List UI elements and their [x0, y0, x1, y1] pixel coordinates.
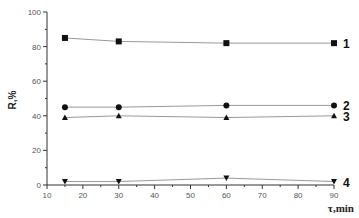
- series-line-2: [65, 105, 334, 107]
- y-tick-label: 0: [37, 181, 42, 190]
- x-tick-label: 20: [78, 191, 87, 200]
- circle-marker-icon: [223, 102, 229, 108]
- x-tick-label: 90: [330, 191, 339, 200]
- square-marker-icon: [331, 40, 337, 46]
- series-line-3: [65, 116, 334, 118]
- series-line-4: [65, 178, 334, 181]
- series-label-3: 3: [343, 110, 350, 124]
- x-tick-label: 40: [150, 191, 159, 200]
- x-tick-label: 10: [43, 191, 52, 200]
- y-tick-label: 60: [32, 77, 41, 86]
- x-tick-label: 50: [186, 191, 195, 200]
- x-tick-label: 80: [294, 191, 303, 200]
- y-tick-label: 40: [32, 112, 41, 121]
- x-tick-label: 30: [114, 191, 123, 200]
- x-axis-label: τ,min: [328, 202, 354, 214]
- series-line-1: [65, 38, 334, 43]
- x-tick-label: 60: [222, 191, 231, 200]
- chart-axes: 020406080100102030405060708090: [28, 8, 339, 200]
- circle-marker-icon: [116, 104, 122, 110]
- series-markers: [62, 35, 337, 185]
- y-tick-label: 100: [28, 8, 42, 17]
- circle-marker-icon: [62, 104, 68, 110]
- line-chart: 020406080100102030405060708090 1234 R,% …: [0, 0, 359, 218]
- series-lines: [65, 38, 334, 182]
- square-marker-icon: [223, 40, 229, 46]
- y-tick-label: 20: [32, 146, 41, 155]
- square-marker-icon: [62, 35, 68, 41]
- x-tick-label: 70: [258, 191, 267, 200]
- series-label-1: 1: [343, 37, 350, 51]
- square-marker-icon: [116, 38, 122, 44]
- series-label-4: 4: [343, 176, 350, 190]
- circle-marker-icon: [331, 102, 337, 108]
- y-tick-label: 80: [32, 43, 41, 52]
- series-labels: 1234: [343, 37, 350, 189]
- y-axis-label: R,%: [7, 90, 18, 109]
